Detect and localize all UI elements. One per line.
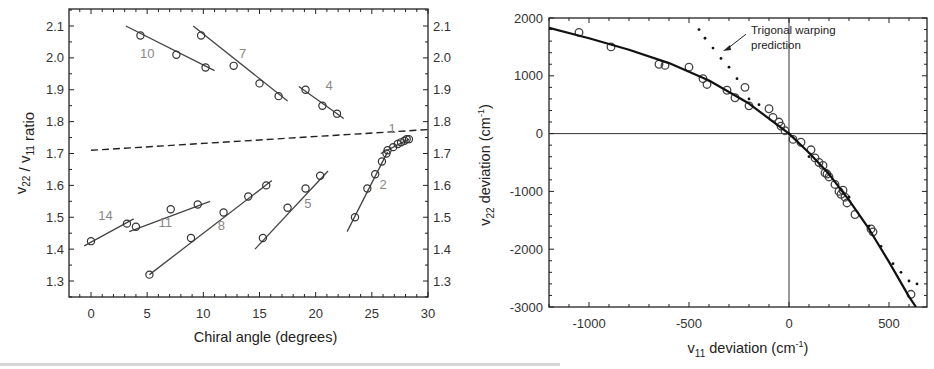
y-tick-label-right: 2.0 [433, 50, 451, 65]
y-tick-label: 1000 [514, 68, 543, 83]
x-tick-label: 10 [196, 306, 210, 321]
series-label: 8 [218, 218, 225, 233]
y-tick-label: -3000 [510, 300, 543, 315]
series-14: 14 [84, 208, 133, 246]
series-2: 2 [347, 150, 390, 232]
x-tick-label: -500 [676, 316, 702, 331]
y-tick-label-right: 1.4 [433, 242, 451, 257]
series-label: 5 [304, 196, 311, 211]
series-label: 14 [98, 208, 112, 223]
y-tick-label-right: 1.8 [433, 114, 451, 129]
prediction-dot [828, 173, 831, 176]
data-point [173, 51, 180, 58]
series-label: 1 [388, 121, 395, 136]
y-tick-label-right: 1.5 [433, 210, 451, 225]
y-axis-title: v22 / v11 ratio [12, 112, 37, 194]
series-label: 2 [379, 177, 386, 192]
prediction-dot [848, 196, 851, 199]
prediction-dot [908, 280, 911, 283]
y-tick-label: 1.7 [46, 146, 64, 161]
plot-frame [549, 18, 927, 307]
y-tick-label-right: 1.9 [433, 82, 451, 97]
y-tick-label-right: 2.1 [433, 19, 451, 34]
x-tick-label: -1000 [572, 316, 605, 331]
y-tick-label: 2.0 [46, 50, 64, 65]
plot-area [549, 28, 918, 307]
arrow-head-icon [723, 45, 731, 51]
prediction-dot [808, 155, 811, 158]
x-tick-label: 15 [252, 306, 266, 321]
x-tick-label: 25 [365, 306, 379, 321]
data-point [256, 80, 263, 87]
y-tick-label: 1.8 [46, 114, 64, 129]
y-tick-label: 1.3 [46, 274, 64, 289]
prediction-dot [728, 66, 731, 69]
series-label: 11 [158, 215, 172, 230]
reference-dashed-line [91, 130, 428, 151]
data-point [187, 234, 194, 241]
series-label: 4 [326, 78, 333, 93]
prediction-dot [712, 47, 715, 50]
data-points [575, 29, 915, 298]
prediction-dot [868, 225, 871, 228]
plot-frame [69, 9, 428, 297]
y-tick-label: 1.4 [46, 242, 64, 257]
data-point [284, 204, 291, 211]
series-11: 11 [129, 201, 210, 232]
y-tick-label: 2.1 [46, 19, 64, 34]
left-chart-panel: 0510152025301.31.41.51.61.71.81.92.02.11… [0, 0, 464, 369]
prediction-dot [900, 271, 903, 274]
data-point [167, 206, 174, 213]
cropped-caption [0, 358, 934, 369]
trigonal-warping-annotation: Trigonal warpingprediction [723, 24, 836, 51]
data-point [302, 185, 309, 192]
prediction-dot [758, 103, 761, 106]
chiral-angle-ratio-chart: 0510152025301.31.41.51.61.71.81.92.02.11… [0, 0, 464, 369]
x-tick-label: 20 [308, 306, 322, 321]
series-7: 7 [193, 26, 287, 101]
y-tick-label-right: 1.3 [433, 274, 451, 289]
y-tick-label: 1.6 [46, 178, 64, 193]
prediction-dot [880, 245, 883, 248]
x-tick-label: 30 [421, 306, 435, 321]
series-label: 10 [140, 46, 154, 61]
x-tick-label: 0 [785, 316, 792, 331]
y-tick-label: 1.5 [46, 210, 64, 225]
fit-line [193, 26, 287, 101]
y-tick-label: 1.9 [46, 82, 64, 97]
data-point [220, 209, 227, 216]
annotation-line-2: prediction [751, 39, 801, 51]
x-axis-title: v11 deviation (cm-1) [688, 339, 809, 359]
data-point [230, 62, 237, 69]
y-tick-label: -2000 [510, 242, 543, 257]
prediction-dot [916, 282, 919, 285]
annotation-line-1: Trigonal warping [751, 24, 836, 36]
prediction-dot [748, 98, 751, 101]
y-tick-label: 0 [536, 126, 543, 141]
right-chart-panel: -1000-5000500-3000-2000-1000010002000v11… [464, 0, 934, 369]
prediction-dot [720, 57, 723, 60]
series-4: 4 [299, 78, 344, 119]
y-tick-label-right: 1.6 [433, 178, 451, 193]
data-point [765, 105, 773, 113]
prediction-dot [698, 28, 701, 31]
x-tick-label: 5 [144, 306, 151, 321]
fit-curve [549, 28, 916, 307]
trigonal-warping-dots [698, 28, 919, 285]
prediction-dot [892, 262, 895, 265]
series-label: 7 [239, 46, 246, 61]
series-1: 1 [381, 121, 413, 154]
y-tick-label-right: 1.7 [433, 146, 451, 161]
deviation-chart: -1000-5000500-3000-2000-1000010002000v11… [464, 0, 934, 369]
x-axis-title: Chiral angle (degrees) [194, 329, 337, 345]
prediction-dot [704, 37, 707, 40]
series-5: 5 [255, 171, 328, 249]
x-tick-label: 500 [878, 316, 900, 331]
y-tick-label: -1000 [510, 184, 543, 199]
prediction-dot [788, 132, 791, 135]
y-tick-label: 2000 [514, 11, 543, 26]
x-tick-label: 0 [87, 306, 94, 321]
data-point [741, 84, 749, 92]
y-axis-title: v22 deviation (cm-1) [476, 104, 496, 226]
prediction-dot [736, 77, 739, 80]
